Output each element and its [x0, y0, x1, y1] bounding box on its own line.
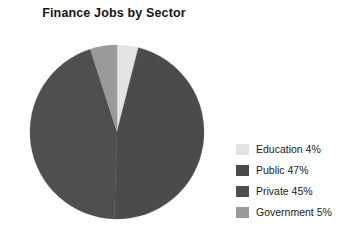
legend-swatch-icon: [236, 144, 249, 155]
legend-item-private[interactable]: Private 45%: [236, 181, 340, 202]
pie-plot-area: [29, 32, 205, 232]
pie-chart: Finance Jobs by Sector Education 4%Publi…: [0, 0, 340, 242]
chart-title: Finance Jobs by Sector: [0, 6, 228, 20]
legend-item-label: Private 45%: [256, 186, 313, 197]
legend-swatch-icon: [236, 207, 249, 218]
legend-item-label: Education 4%: [256, 144, 321, 155]
legend-item-label: Public 47%: [256, 165, 309, 176]
legend-item-label: Government 5%: [256, 207, 332, 218]
legend-item-education[interactable]: Education 4%: [236, 139, 340, 160]
pie-slice-group: [30, 45, 204, 219]
legend-swatch-icon: [236, 165, 249, 176]
legend-item-government[interactable]: Government 5%: [236, 202, 340, 223]
legend-swatch-icon: [236, 186, 249, 197]
chart-legend: Education 4%Public 47%Private 45%Governm…: [236, 139, 340, 223]
pie-svg: [29, 32, 205, 232]
legend-item-public[interactable]: Public 47%: [236, 160, 340, 181]
